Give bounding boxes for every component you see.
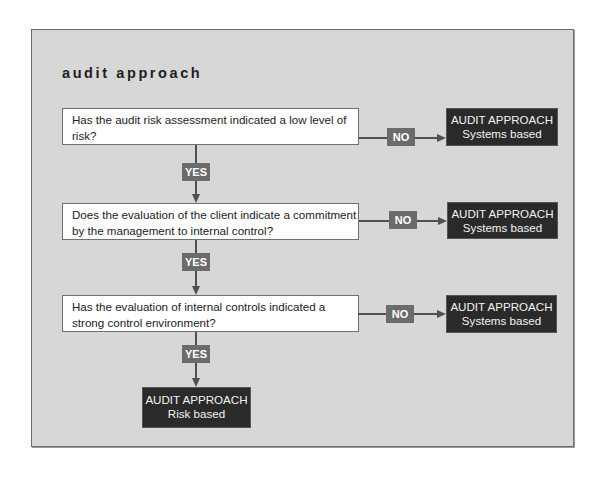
outcome-subtitle: Systems based	[447, 314, 556, 328]
arrow-down-icon	[192, 378, 200, 387]
question-box-2: Does the evaluation of the client indica…	[62, 203, 359, 240]
outcome-subtitle: Systems based	[447, 127, 557, 141]
diagram-title: audit approach	[62, 65, 202, 81]
outcome-systems-2: AUDIT APPROACH Systems based	[447, 202, 558, 239]
arrow-down-icon	[192, 194, 200, 203]
outcome-heading: AUDIT APPROACH	[448, 207, 557, 221]
outcome-subtitle: Systems based	[448, 221, 557, 235]
arrow-right-icon	[437, 134, 446, 142]
outcome-systems-1: AUDIT APPROACH Systems based	[446, 108, 558, 146]
arrow-down-icon	[192, 286, 200, 295]
arrow-right-icon	[438, 217, 447, 225]
outcome-subtitle: Risk based	[143, 407, 250, 421]
yes-badge-1: YES	[182, 163, 210, 181]
question-box-1: Has the audit risk assessment indicated …	[62, 108, 359, 145]
outcome-risk-based: AUDIT APPROACH Risk based	[142, 387, 251, 428]
no-badge-3: NO	[386, 305, 414, 323]
no-badge-2: NO	[389, 211, 417, 229]
yes-badge-3: YES	[182, 345, 210, 363]
outcome-heading: AUDIT APPROACH	[447, 300, 556, 314]
outcome-systems-3: AUDIT APPROACH Systems based	[446, 295, 557, 333]
yes-badge-2: YES	[182, 253, 210, 271]
outcome-heading: AUDIT APPROACH	[447, 113, 557, 127]
arrow-right-icon	[437, 310, 446, 318]
question-box-3: Has the evaluation of internal controls …	[62, 295, 359, 332]
outcome-heading: AUDIT APPROACH	[143, 393, 250, 407]
no-badge-1: NO	[387, 128, 415, 146]
